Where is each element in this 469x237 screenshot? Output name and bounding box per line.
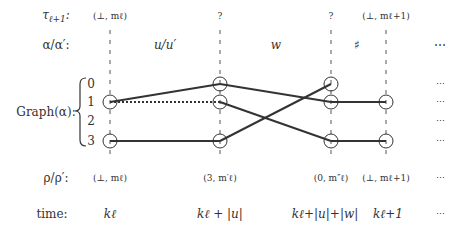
- tau-value: ?: [329, 11, 334, 21]
- rho-value: (⊥, mℓ): [93, 173, 127, 183]
- time-value: kℓ+1: [373, 207, 403, 222]
- graph-row-1: 1: [87, 95, 95, 109]
- graph-row-label: Graph(α):: [16, 105, 75, 119]
- alpha-row-label: α/α′:: [42, 38, 69, 52]
- tau-value: ?: [218, 11, 223, 21]
- time-value: kℓ: [104, 207, 116, 222]
- rho-value: (⊥, mℓ+1): [362, 173, 409, 183]
- rho-value: (3, m′ℓ): [203, 173, 236, 183]
- segment-w: w: [271, 38, 281, 52]
- graph-ellipsis: ⋯: [436, 136, 445, 146]
- time-ellipsis: ⋯: [436, 209, 445, 219]
- tau-row-label: τℓ+1:: [42, 8, 70, 24]
- graph-ellipsis: ⋯: [436, 116, 445, 126]
- rho-row-label: ρ/ρ′:: [44, 171, 69, 185]
- graph-ellipsis: ⋯: [436, 79, 445, 89]
- time-row-label: time:: [36, 207, 67, 221]
- segment-u: u/u′: [154, 38, 176, 52]
- time-value: kℓ+|u|+|w|: [292, 207, 359, 222]
- row-brace: [75, 78, 86, 146]
- segment-sharp: ♯: [354, 38, 360, 52]
- tau-value: (⊥, mℓ+1): [362, 11, 409, 21]
- graph-ellipsis: ⋯: [436, 97, 445, 107]
- graph-row-3: 3: [87, 134, 95, 148]
- time-value: kℓ + |u|: [197, 207, 243, 222]
- rho-value: (0, m″ℓ): [314, 173, 349, 183]
- tau-value: (⊥, mℓ): [93, 11, 127, 21]
- graph-row-0: 0: [87, 77, 95, 91]
- rho-ellipsis: ⋯: [436, 173, 445, 183]
- column-guides: [110, 30, 386, 158]
- graph-row-2: 2: [87, 114, 95, 128]
- segment-ellipsis: ⋯: [434, 38, 446, 52]
- graph-edges: [110, 84, 386, 141]
